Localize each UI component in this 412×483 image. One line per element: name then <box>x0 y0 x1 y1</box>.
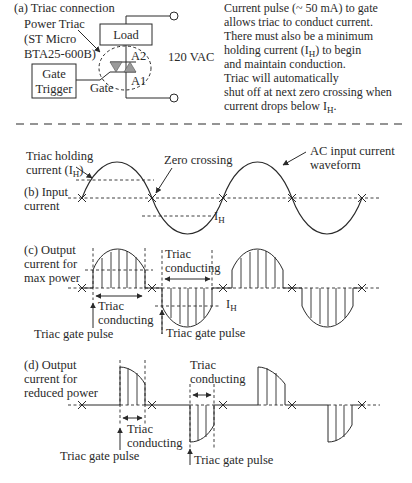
panel-c-max-power: (c) Output current for max power Triac c… <box>24 243 380 341</box>
svg-text:IH: IH <box>226 297 237 313</box>
svg-text:conducting: conducting <box>127 436 183 450</box>
panel-b-label-2: current <box>24 199 60 213</box>
zero-crossing-label: Zero crossing <box>164 153 233 167</box>
bottom-terminal-icon <box>170 94 178 102</box>
svg-text:Triac: Triac <box>98 299 124 313</box>
svg-text:conducting: conducting <box>165 261 221 275</box>
ac-arrow <box>283 152 306 165</box>
d-gate-pulse-label-1: Triac gate pulse <box>60 449 140 463</box>
top-terminal-icon <box>170 12 178 20</box>
device-label-2: (ST Micro <box>24 32 76 46</box>
zero-crossing-arrow <box>156 168 172 193</box>
triac-diagram: (a) Triac connection Power Triac (ST Mic… <box>0 0 412 483</box>
svg-text:IH: IH <box>214 209 225 225</box>
svg-text:max power: max power <box>24 271 81 285</box>
svg-text:allows triac to conduct curren: allows triac to conduct current. <box>224 15 373 29</box>
device-label-1: Power Triac <box>24 17 85 31</box>
svg-text:shut off at next zero crossing: shut off at next zero crossing when <box>224 85 392 99</box>
svg-text:current drops below IH.: current drops below IH. <box>224 99 336 115</box>
holding-label-1: Triac holding <box>26 149 94 163</box>
gate-trigger-line-2: Trigger <box>35 82 73 96</box>
panel-d-reduced-power: (d) Output current for reduced power Tri… <box>24 358 380 467</box>
svg-text:reduced power: reduced power <box>24 386 99 400</box>
a1-label: A1 <box>131 74 146 88</box>
description-text: Current pulse (~ 50 mA) to gate allows t… <box>224 1 392 115</box>
svg-text:Triac: Triac <box>127 422 153 436</box>
ac-label-2: waveform <box>310 158 361 172</box>
svg-text:Triac will automatically: Triac will automatically <box>224 71 339 85</box>
svg-text:current for: current for <box>24 257 78 271</box>
a2-label: A2 <box>131 49 146 63</box>
svg-text:Triac: Triac <box>165 247 191 261</box>
supply-label: 120 VAC <box>168 50 214 64</box>
svg-text:(c) Output: (c) Output <box>24 243 76 257</box>
svg-text:current (IH): current (IH) <box>26 163 84 179</box>
gate-trigger-line-1: Gate <box>42 67 66 81</box>
svg-text:conducting: conducting <box>190 372 246 386</box>
panel-b-input-current: Triac holding current (IH) (b) Input cur… <box>24 144 395 234</box>
svg-text:(d) Output: (d) Output <box>24 358 77 372</box>
panel-b-label-1: (b) Input <box>24 185 69 199</box>
d-gate-pulse-label-2: Triac gate pulse <box>194 453 274 467</box>
svg-text:conducting: conducting <box>98 313 154 327</box>
svg-text:current for: current for <box>24 372 78 386</box>
load-label: Load <box>113 28 139 42</box>
gate-wire <box>76 72 110 80</box>
svg-text:Triac: Triac <box>190 358 216 372</box>
panel-a-title: (a) Triac connection <box>14 1 115 15</box>
gate-label: Gate <box>90 81 114 95</box>
svg-text:Current pulse (~ 50 mA) to gat: Current pulse (~ 50 mA) to gate <box>224 1 378 15</box>
c-gate-pulse-label-1: Triac gate pulse <box>34 327 114 341</box>
triac-left-triangle-icon <box>110 62 122 72</box>
ac-label-1: AC input current <box>310 144 395 158</box>
device-label-3: BTA25-600B) <box>24 47 96 61</box>
svg-text:and maintain conduction.: and maintain conduction. <box>224 57 346 71</box>
svg-text:There must also be a minimum: There must also be a minimum <box>224 29 374 43</box>
c-gate-pulse-label-2: Triac gate pulse <box>166 326 246 340</box>
panel-a-triac-connection: (a) Triac connection Power Triac (ST Mic… <box>14 1 392 115</box>
